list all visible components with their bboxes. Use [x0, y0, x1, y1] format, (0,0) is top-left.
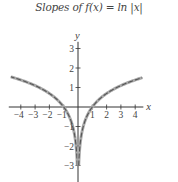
curve-right: [79, 78, 143, 166]
y-tick-label: −3: [64, 161, 74, 171]
x-tick-label: −4: [14, 110, 24, 120]
y-tick-label: 2: [69, 64, 74, 74]
tick-labels: −4−3−2−11234−3−2−1123xy: [14, 30, 152, 171]
y-tick-label: 1: [69, 83, 74, 93]
y-tick-label: 3: [69, 44, 74, 54]
x-tick-label: −2: [42, 110, 52, 120]
y-tick-label: −2: [64, 142, 74, 152]
x-tick-label: 2: [104, 110, 109, 120]
x-tick-label: 1: [90, 110, 95, 120]
y-tick-label: −1: [64, 122, 74, 132]
chart-plot-area: −4−3−2−11234−3−2−1123xy: [0, 0, 178, 182]
y-axis-label: y: [74, 30, 80, 41]
x-tick-label: −3: [28, 110, 38, 120]
x-tick-label: 4: [133, 110, 138, 120]
x-tick-label: −1: [57, 110, 67, 120]
x-axis-label: x: [145, 101, 151, 112]
curves: [11, 77, 143, 166]
x-tick-label: 3: [119, 110, 124, 120]
